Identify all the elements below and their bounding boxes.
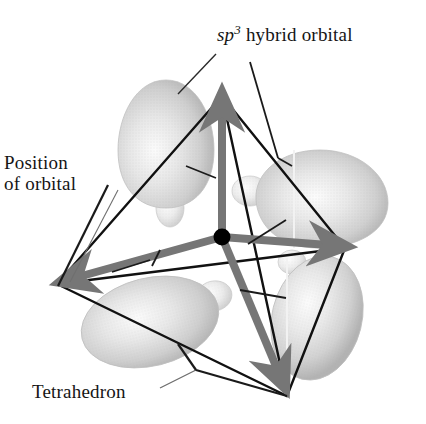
center-atom-dot	[214, 229, 231, 246]
label-sp3-suffix: hybrid orbital	[241, 24, 353, 45]
leader-sp3-to-upper-lobe	[178, 54, 216, 94]
orbital-upper-left	[118, 80, 214, 227]
orbital-right-texture	[256, 150, 388, 248]
leader-tetrahedron	[160, 370, 196, 388]
label-tetrahedron: Tetrahedron	[32, 381, 126, 402]
label-sp3-superscript: 3	[234, 22, 241, 37]
arrow-left	[78, 237, 222, 277]
label-sp3-prefix: sp	[217, 24, 234, 45]
diagram-canvas	[0, 0, 426, 424]
label-position-line2: of orbital	[4, 173, 124, 194]
edge-top-bottom	[222, 96, 287, 396]
orbital-right	[232, 150, 388, 248]
label-position-of-orbital: Position of orbital	[4, 152, 124, 194]
orbital-diagram-figure: sp3 hybrid orbital Position of orbital T…	[0, 0, 426, 424]
leader-sp3-to-right-lobe	[250, 62, 278, 158]
label-sp3-hybrid-orbital: sp3 hybrid orbital	[217, 24, 353, 45]
label-position-line1: Position	[4, 152, 124, 173]
